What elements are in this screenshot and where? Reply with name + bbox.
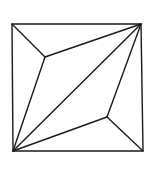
edge-inner-upper-to-top-right bbox=[45, 24, 141, 57]
edge-bottom-left-to-inner-lower bbox=[13, 117, 107, 151]
edge-inner-upper-to-bottom-left bbox=[13, 57, 45, 151]
edge-inner-lower-to-top-right bbox=[107, 24, 141, 117]
edge-top-left-to-inner-upper bbox=[12, 24, 45, 57]
edge-inner-lower-to-bottom-right bbox=[107, 117, 143, 151]
edge-bottom-left-to-top-right bbox=[13, 24, 141, 151]
geometric-figure bbox=[12, 24, 143, 151]
diagram-canvas bbox=[0, 0, 156, 170]
